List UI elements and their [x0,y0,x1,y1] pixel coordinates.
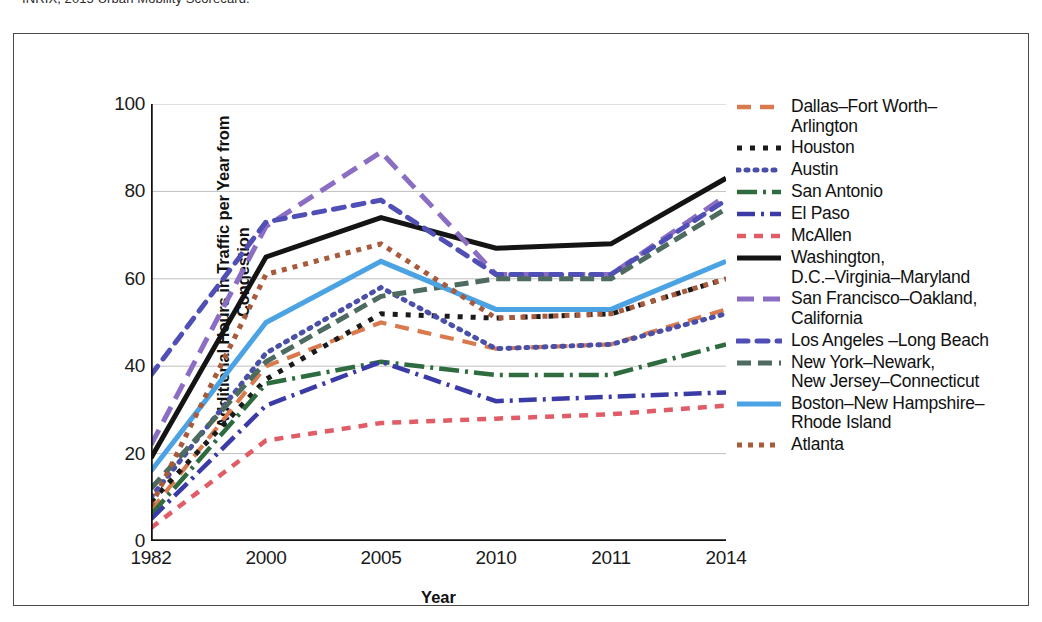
legend-swatch-icon [736,393,782,414]
legend-label: Austin [791,159,838,180]
legend-label: McAllen [791,225,852,246]
y-axis-tick-labels: 020406080100 [101,104,145,541]
legend-item[interactable]: Dallas–Fort Worth– Arlington [736,96,1036,136]
chart-legend: Dallas–Fort Worth– ArlingtonHoustonAusti… [736,96,1036,456]
legend-swatch-icon [736,159,782,180]
chart-plot [151,104,726,541]
x-tick-label: 2005 [360,547,401,569]
legend-item[interactable]: El Paso [736,203,1036,224]
legend-item[interactable]: Los Angeles –Long Beach [736,330,1036,351]
series-line-5 [151,406,726,528]
legend-label: Atlanta [791,434,844,455]
legend-label: Houston [791,137,854,158]
legend-label: El Paso [791,203,850,224]
legend-swatch-icon [736,330,782,351]
y-tick-label: 20 [124,443,145,465]
legend-swatch-icon [736,352,782,373]
legend-item[interactable]: Austin [736,159,1036,180]
legend-label: San Francisco–Oakland, California [791,288,977,328]
legend-label: Dallas–Fort Worth– Arlington [791,96,937,136]
legend-item[interactable]: Atlanta [736,434,1036,455]
series-line-9 [151,209,726,489]
legend-item[interactable]: San Antonio [736,181,1036,202]
y-tick-label: 60 [124,268,145,290]
plot-area: Additional Hours in Traffic per Year fro… [151,104,726,541]
legend-item[interactable]: New York–Newark, New Jersey–Connecticut [736,352,1036,392]
legend-label: San Antonio [791,181,883,202]
x-axis-tick-labels: 198220002005201020112014 [151,547,726,577]
legend-swatch-icon [736,288,782,309]
legend-swatch-icon [736,434,782,455]
legend-label: Los Angeles –Long Beach [791,330,989,351]
legend-item[interactable]: Houston [736,137,1036,158]
legend-swatch-icon [736,96,782,117]
legend-label: Washington, D.C.–Virginia–Maryland [791,247,970,287]
y-tick-label: 40 [124,355,145,377]
legend-label: Boston–New Hampshire– Rhode Island [791,393,984,433]
series-line-3 [151,344,726,514]
legend-swatch-icon [736,181,782,202]
legend-item[interactable]: McAllen [736,225,1036,246]
x-axis-title: Year [151,588,726,607]
series-line-4 [151,362,726,519]
y-tick-label: 100 [114,93,145,115]
legend-swatch-icon [736,247,782,268]
legend-swatch-icon [736,137,782,158]
legend-label: New York–Newark, New Jersey–Connecticut [791,352,979,392]
legend-swatch-icon [736,203,782,224]
figure-frame: Additional Hours in Traffic per Year fro… [13,33,1029,606]
x-tick-label: 2014 [705,547,746,569]
x-tick-label: 2000 [245,547,286,569]
source-caption: INRIX, 2015 Urban Mobility Scorecard. [22,0,250,6]
x-tick-label: 1982 [130,547,171,569]
legend-swatch-icon [736,225,782,246]
y-tick-label: 80 [124,180,145,202]
legend-item[interactable]: Boston–New Hampshire– Rhode Island [736,393,1036,433]
legend-item[interactable]: San Francisco–Oakland, California [736,288,1036,328]
legend-item[interactable]: Washington, D.C.–Virginia–Maryland [736,247,1036,287]
series-line-0 [151,309,726,510]
x-tick-label: 2010 [475,547,516,569]
x-tick-label: 2011 [591,547,631,569]
figure-root: INRIX, 2015 Urban Mobility Scorecard. Ad… [0,0,1042,622]
